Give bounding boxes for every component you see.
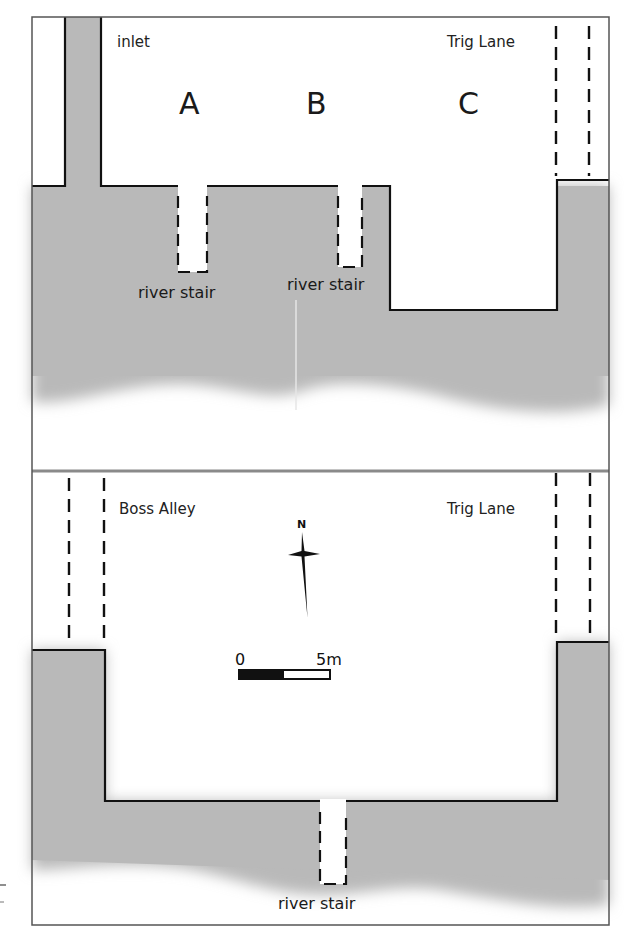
scale-start-label: 0 bbox=[235, 650, 245, 669]
north-label: N bbox=[297, 518, 306, 531]
plot-b-label: B bbox=[306, 86, 327, 121]
upper-plan bbox=[32, 17, 609, 412]
plot-a-label: A bbox=[179, 86, 200, 121]
scale-bar bbox=[239, 670, 330, 679]
river-stair-a bbox=[178, 184, 207, 272]
trig-lane-lower-lines bbox=[556, 473, 590, 638]
plot-c-label: C bbox=[458, 86, 479, 121]
north-arrow-icon bbox=[288, 532, 320, 618]
river-stair-a-label: river stair bbox=[138, 283, 215, 302]
trig-lane-label-lower: Trig Lane bbox=[447, 500, 515, 518]
river-stair-lower bbox=[320, 799, 346, 884]
boss-alley-label: Boss Alley bbox=[119, 500, 196, 518]
scale-end-label: 5m bbox=[316, 650, 342, 669]
lower-plan bbox=[32, 473, 609, 907]
river-stair-b bbox=[338, 184, 362, 267]
trig-lane-label-upper: Trig Lane bbox=[447, 33, 515, 51]
plot-c-recess bbox=[390, 17, 557, 310]
river-stair-lower-label: river stair bbox=[278, 894, 355, 913]
boss-alley-lines bbox=[69, 478, 104, 646]
river-stair-b-label: river stair bbox=[287, 275, 364, 294]
site-plan-drawing bbox=[0, 0, 633, 947]
inlet-label: inlet bbox=[117, 33, 150, 51]
inlet-channel bbox=[65, 17, 101, 187]
